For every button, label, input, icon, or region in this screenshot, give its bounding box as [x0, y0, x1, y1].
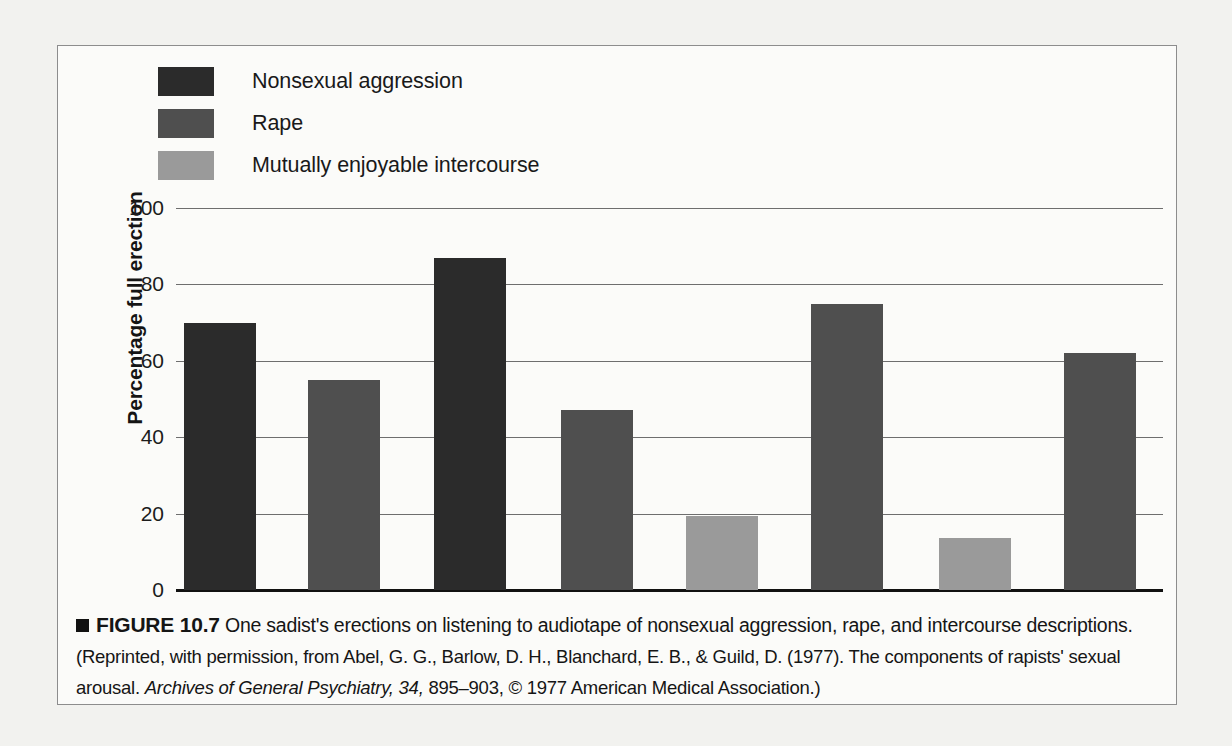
figure-caption-source-post: 895–903, © 1977 American Medical Associa… [424, 677, 821, 698]
bar-6 [811, 304, 883, 591]
figure-number-label: FIGURE 10.7 [96, 613, 220, 636]
figure-caption-main-text: One sadist's erections on listening to a… [225, 614, 1133, 636]
figure-caption: FIGURE 10.7 One sadist's erections on li… [76, 609, 1161, 703]
bar-chart-plot: Percentage full erection 020406080100 [58, 46, 1178, 606]
bar-4 [561, 410, 633, 590]
figure-caption-source-journal: Archives of General Psychiatry, 34, [145, 677, 424, 698]
bar-1 [184, 323, 256, 590]
figure-bullet-icon [76, 619, 89, 632]
bar-7 [939, 538, 1011, 590]
bar-2 [308, 380, 380, 590]
bars [58, 46, 1178, 590]
bar-3 [434, 258, 506, 590]
bar-8 [1064, 353, 1136, 590]
figure-frame: Nonsexual aggression Rape Mutually enjoy… [57, 45, 1177, 705]
bar-5 [686, 516, 758, 590]
